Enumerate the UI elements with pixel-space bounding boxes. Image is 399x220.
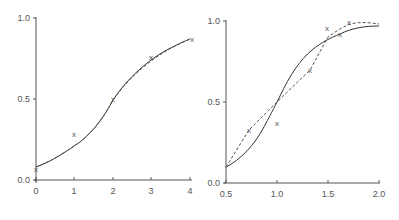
left-marker-3: x [149,53,153,62]
left-marker-4: x [190,35,194,44]
right-marker-6: x [347,18,351,27]
right-solid-curve [226,26,379,167]
left-ytick-0: 0.0 [17,175,30,185]
right-chart: 1.0 0.5 0.0 0.5 1.0 1.5 2.0 x x x x x x [207,16,385,199]
right-xtick-15: 1.5 [322,189,335,199]
left-xtick-0: 0 [33,186,38,196]
right-marker-4: x [325,24,329,33]
left-ytick-05: 0.5 [17,94,30,104]
right-marker-5: x [338,30,342,39]
right-xtick-20: 2.0 [373,189,386,199]
charts-canvas: 1.0 0.5 0.0 0 1 2 3 4 x x x x x 1.0 0.5 … [0,0,399,220]
left-xtick-1: 1 [71,186,76,196]
right-marker-3: x [308,66,312,75]
right-dashed-curve [226,23,379,167]
right-marker-2: x [275,119,279,128]
left-xtick-4: 4 [187,186,192,196]
left-marker-0: x [34,165,38,174]
left-xtick-3: 3 [148,186,153,196]
left-ytick-1: 1.0 [17,13,30,23]
right-xtick-10: 1.0 [271,189,284,199]
left-marker-2: x [111,95,115,104]
right-marker-1: x [247,126,251,135]
right-ytick-0: 0.0 [207,178,220,188]
right-ytick-1: 1.0 [207,16,220,26]
right-xtick-05: 0.5 [220,189,233,199]
left-marker-1: x [72,130,76,139]
right-ytick-05: 0.5 [207,97,220,107]
left-xtick-2: 2 [110,186,115,196]
left-chart: 1.0 0.5 0.0 0 1 2 3 4 x x x x x [17,13,194,196]
